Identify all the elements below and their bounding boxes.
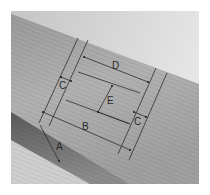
label-b: B [82,121,89,132]
label-a: A [56,141,63,152]
label-c-right: C [134,116,141,127]
label-e: E [107,95,114,106]
label-c-left: C [59,80,66,91]
label-d: D [112,60,119,71]
beam-photo: D C E C B A [0,0,210,195]
